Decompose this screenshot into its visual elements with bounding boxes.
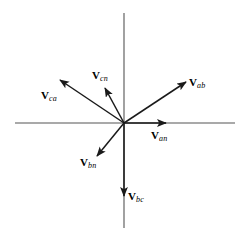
phasor-vector-v-ca bbox=[60, 80, 124, 123]
vector-label-v-ab: Vab bbox=[189, 73, 205, 90]
vector-symbol: V bbox=[189, 76, 197, 88]
vector-label-v-cn: Vcn bbox=[92, 66, 108, 83]
vector-subscript: ca bbox=[49, 94, 57, 103]
vector-label-v-bc: Vbc bbox=[128, 187, 144, 204]
vector-subscript: bc bbox=[136, 195, 144, 204]
vector-symbol: V bbox=[151, 129, 159, 141]
vector-label-v-an: Van bbox=[151, 126, 167, 143]
vector-symbol: V bbox=[92, 69, 100, 81]
vector-label-v-bn: Vbn bbox=[80, 153, 96, 170]
vector-symbol: V bbox=[128, 190, 136, 202]
vector-subscript: an bbox=[159, 134, 167, 143]
vector-symbol: V bbox=[80, 156, 88, 168]
vector-symbol: V bbox=[41, 89, 49, 101]
vector-subscript: cn bbox=[100, 74, 108, 83]
phasor-vector-v-cn bbox=[105, 88, 124, 123]
vector-label-v-ca: Vca bbox=[41, 86, 57, 103]
phasor-vector-v-ab bbox=[124, 82, 186, 123]
phasor-diagram-figure: Vab Van Vcn Vca Vbn Vbc bbox=[0, 0, 245, 240]
phasor-diagram-canvas bbox=[0, 0, 245, 240]
phasor-vector-v-bn bbox=[97, 123, 124, 156]
vector-subscript: bn bbox=[88, 161, 96, 170]
vector-subscript: ab bbox=[197, 81, 205, 90]
